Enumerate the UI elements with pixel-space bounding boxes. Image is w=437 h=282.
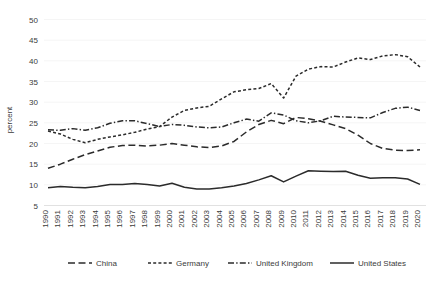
x-tick-2012: 2012 [314, 209, 323, 227]
x-tick-2005: 2005 [227, 209, 236, 227]
x-tick-1991: 1991 [53, 209, 62, 227]
x-tick-2020: 2020 [413, 209, 422, 227]
x-tick-2001: 2001 [177, 209, 186, 227]
x-tick-2003: 2003 [202, 209, 211, 227]
x-tick-2006: 2006 [239, 209, 248, 227]
x-tick-2015: 2015 [351, 209, 360, 227]
x-tick-2013: 2013 [326, 209, 335, 227]
x-tick-2014: 2014 [339, 209, 348, 227]
y-tick-25: 25 [29, 119, 38, 128]
y-tick-50: 50 [29, 16, 38, 25]
x-tick-1993: 1993 [78, 209, 87, 227]
x-tick-1997: 1997 [128, 209, 137, 227]
x-tick-1990: 1990 [41, 209, 50, 227]
x-tick-1992: 1992 [66, 209, 75, 227]
y-tick-35: 35 [29, 78, 38, 87]
x-tick-2009: 2009 [277, 209, 286, 227]
x-tick-2016: 2016 [363, 209, 372, 227]
y-tick-45: 45 [29, 36, 38, 45]
x-tick-1999: 1999 [153, 209, 162, 227]
x-tick-1996: 1996 [115, 209, 124, 227]
legend-label-china[interactable]: China [96, 259, 117, 268]
y-tick-10: 10 [29, 181, 38, 190]
y-axis-title: percent [5, 106, 14, 133]
line-chart: 5101520253035404550 19901991199219931994… [0, 0, 437, 282]
chart-container: 5101520253035404550 19901991199219931994… [0, 0, 437, 282]
x-tick-2017: 2017 [376, 209, 385, 227]
chart-background [0, 0, 437, 282]
x-tick-2018: 2018 [388, 209, 397, 227]
legend-label-united-kingdom[interactable]: United Kingdom [256, 259, 313, 268]
x-tick-2011: 2011 [301, 209, 310, 227]
legend-label-united-states[interactable]: United States [358, 259, 406, 268]
x-tick-1995: 1995 [103, 209, 112, 227]
x-tick-2000: 2000 [165, 209, 174, 227]
x-tick-1998: 1998 [140, 209, 149, 227]
legend-label-germany[interactable]: Germany [176, 259, 209, 268]
y-tick-40: 40 [29, 57, 38, 66]
x-tick-2004: 2004 [215, 209, 224, 227]
x-tick-1994: 1994 [91, 209, 100, 227]
y-tick-15: 15 [29, 160, 38, 169]
x-tick-2007: 2007 [252, 209, 261, 227]
y-tick-5: 5 [34, 202, 39, 211]
x-tick-2008: 2008 [264, 209, 273, 227]
x-tick-2010: 2010 [289, 209, 298, 227]
x-axis-tick-labels: 1990199119921993199419951996199719981999… [41, 209, 422, 227]
x-tick-2002: 2002 [190, 209, 199, 227]
y-tick-30: 30 [29, 98, 38, 107]
x-tick-2019: 2019 [401, 209, 410, 227]
y-tick-20: 20 [29, 140, 38, 149]
